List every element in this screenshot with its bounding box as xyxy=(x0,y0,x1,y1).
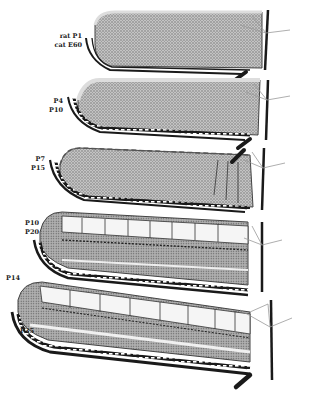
stage-1-rat-age: rat P1 xyxy=(30,32,82,41)
stage-5-section xyxy=(12,282,292,387)
stage-5-cat-age: P35 xyxy=(20,327,44,336)
stage-1-cat-age: cat E60 xyxy=(30,41,82,50)
stage-2-label: P4 P10 xyxy=(30,97,63,115)
stage-2-section xyxy=(68,80,290,148)
developmental-stages-figure xyxy=(0,0,319,401)
stage-4-section xyxy=(34,212,282,295)
stage-4-rat-age: P10 xyxy=(5,219,39,228)
stage-3-cat-age: P15 xyxy=(12,164,45,173)
stage-5-rat-age: P14 xyxy=(6,274,30,283)
stage-1-section xyxy=(86,10,290,80)
stage-3-rat-age: P7 xyxy=(12,155,45,164)
stage-2-rat-age: P4 xyxy=(30,97,63,106)
stage-3-section xyxy=(50,148,285,212)
stage-2-cat-age: P10 xyxy=(30,106,63,115)
stage-4-label: P10 P20 xyxy=(5,219,39,237)
stage-3-label: P7 P15 xyxy=(12,155,45,173)
stage-1-label: rat P1 cat E60 xyxy=(30,32,82,50)
stage-4-cat-age: P20 xyxy=(5,228,39,237)
